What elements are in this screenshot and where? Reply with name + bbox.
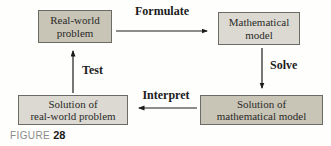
node-mathematical-model: Mathematical model [218, 12, 300, 45]
test-label: Test [82, 63, 103, 77]
figure-caption-number: 28 [53, 129, 65, 141]
node-label-line: real-world problem [30, 110, 115, 123]
figure-caption: FIGURE28 [10, 129, 65, 141]
node-label-line: Real-world [50, 14, 99, 27]
node-label-line: Mathematical [229, 16, 289, 29]
solve-label: Solve [270, 58, 297, 72]
formulate-label: Formulate [116, 4, 208, 18]
node-label-line: problem [57, 27, 94, 40]
node-solution-mathematical-model: Solution of mathematical model [200, 95, 323, 125]
mathematical-modeling-diagram: Real-world problem Mathematical model So… [0, 0, 331, 146]
node-real-world-problem: Real-world problem [38, 10, 112, 43]
node-label-line: Solution of [48, 98, 97, 111]
node-label-line: model [245, 29, 273, 42]
interpret-label: Interpret [128, 88, 204, 102]
node-label-line: Solution of [237, 98, 286, 111]
figure-caption-label: FIGURE [10, 130, 50, 141]
node-solution-real-world-problem: Solution of real-world problem [18, 95, 128, 125]
node-label-line: mathematical model [217, 110, 307, 123]
